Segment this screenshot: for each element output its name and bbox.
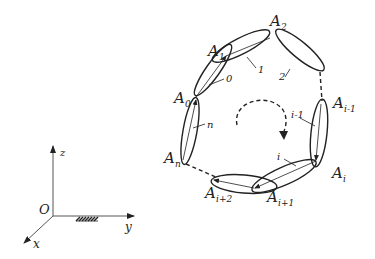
svg-text:1: 1	[219, 52, 225, 62]
dashed-connector	[320, 72, 322, 101]
joint-label-Ai-1: A i-1	[331, 94, 356, 114]
joint-label-Ai: A i	[330, 164, 346, 184]
dashed-connector	[186, 164, 218, 178]
svg-text:i+1: i+1	[278, 198, 294, 208]
svg-text:A: A	[268, 12, 281, 30]
link-label-i-1: i-1	[291, 109, 304, 120]
joint-label-Ai+1: A i+1	[265, 188, 294, 208]
coordinate-frame	[24, 146, 134, 243]
svg-text:A: A	[330, 164, 343, 182]
svg-text:i-1: i-1	[344, 104, 356, 114]
svg-text:0: 0	[185, 99, 191, 109]
link-label-2: 2	[278, 71, 285, 82]
svg-text:2: 2	[280, 22, 287, 32]
rotation-arrow-icon	[279, 131, 288, 140]
joint-label-A2: A 2	[268, 12, 287, 32]
joint-label-An: A n	[162, 149, 181, 169]
link-i-1	[307, 98, 330, 167]
x-axis-label: x	[33, 237, 40, 251]
svg-text:A: A	[203, 184, 216, 202]
svg-text:A: A	[265, 188, 278, 206]
link-label-n: n	[207, 119, 213, 130]
ground-hatch-icon	[76, 217, 98, 221]
rotation-direction-arc	[237, 100, 286, 133]
link-label-i: i	[277, 151, 280, 162]
y-axis-label: y	[124, 220, 132, 234]
joint-label-A0: A 0	[172, 89, 191, 109]
svg-text:A: A	[331, 94, 344, 112]
link-2	[271, 24, 329, 76]
origin-label: O	[39, 202, 50, 217]
link-i	[248, 154, 319, 199]
svg-text:A: A	[162, 149, 175, 167]
kinematic-chain-diagram: z y x O	[0, 0, 375, 259]
svg-text:A: A	[206, 42, 219, 60]
link-label-1: 1	[258, 64, 264, 75]
svg-text:i: i	[343, 174, 346, 184]
link-label-0: 0	[226, 73, 233, 84]
svg-text:i+2: i+2	[216, 194, 232, 204]
svg-text:n: n	[175, 159, 181, 169]
z-axis-label: z	[59, 147, 66, 158]
svg-text:A: A	[172, 89, 185, 107]
joint-label-A1: A 1	[206, 42, 225, 62]
